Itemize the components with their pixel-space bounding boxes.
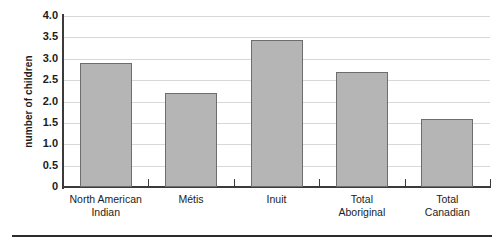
x-axis-tick bbox=[405, 179, 406, 188]
x-axis-tick bbox=[319, 179, 320, 188]
x-axis-category-label: North AmericanIndian bbox=[63, 193, 148, 219]
bar bbox=[251, 40, 303, 187]
y-axis-tick-label: 0.5 bbox=[24, 159, 58, 171]
bar bbox=[80, 63, 132, 187]
x-axis-category-label: Métis bbox=[148, 193, 233, 206]
bar-series bbox=[63, 16, 490, 187]
category-label-line: North American bbox=[70, 193, 142, 205]
category-label-line: Indian bbox=[63, 206, 148, 219]
category-label-line: Inuit bbox=[267, 193, 287, 205]
y-axis-tick-label: 2.5 bbox=[24, 73, 58, 85]
y-axis-tick-label: 4.0 bbox=[24, 9, 58, 21]
bar bbox=[165, 93, 217, 187]
y-axis-tick-label: 3.0 bbox=[24, 52, 58, 64]
category-label-line: Métis bbox=[179, 193, 204, 205]
x-axis-category-label: Inuit bbox=[234, 193, 319, 206]
x-axis-category-label: TotalAboriginal bbox=[319, 193, 404, 219]
y-axis-tick-label: 3.5 bbox=[24, 30, 58, 42]
y-axis-tick-label: 2.0 bbox=[24, 95, 58, 107]
category-label-line: Total bbox=[436, 193, 458, 205]
y-axis-tick-labels: 00.51.01.52.02.53.03.54.0 bbox=[20, 0, 58, 248]
category-label-line: Total bbox=[351, 193, 373, 205]
bar bbox=[421, 119, 473, 187]
y-axis-tick-label: 0 bbox=[24, 180, 58, 192]
bar bbox=[336, 72, 388, 187]
x-axis-tick bbox=[234, 179, 235, 188]
x-axis-tick bbox=[490, 179, 491, 188]
y-axis-tick-label: 1.0 bbox=[24, 137, 58, 149]
category-label-line: Canadian bbox=[405, 206, 490, 219]
x-axis-category-label: TotalCanadian bbox=[405, 193, 490, 219]
y-axis-tick-label: 1.5 bbox=[24, 116, 58, 128]
category-label-line: Aboriginal bbox=[319, 206, 404, 219]
bar-chart-figure: number of children 00.51.01.52.02.53.03.… bbox=[0, 0, 503, 248]
footer-rule bbox=[12, 235, 492, 237]
x-axis-tick bbox=[148, 179, 149, 188]
